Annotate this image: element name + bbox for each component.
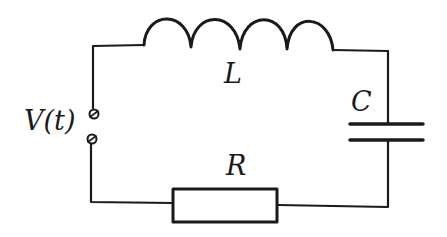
resistor-body	[173, 189, 277, 222]
inductor-coil	[144, 19, 333, 50]
wire-bottom-right	[278, 140, 388, 207]
rlc-circuit-diagram: V(t) L C R	[0, 0, 447, 237]
inductor-label: L	[223, 58, 242, 89]
source-label: V(t)	[24, 105, 75, 136]
wire-bottom-left	[91, 144, 173, 203]
wire-top-left	[93, 45, 144, 108]
resistor-label: R	[225, 150, 246, 181]
capacitor-label: C	[351, 86, 372, 117]
